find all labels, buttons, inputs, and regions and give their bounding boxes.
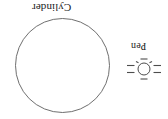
pen-ray-group (127, 59, 161, 79)
cylinder-circle-shape (16, 19, 110, 113)
pen-circle-shape (138, 63, 150, 75)
pen-label: Pen (131, 41, 146, 51)
diagram-canvas: Cylinder Pen (0, 0, 168, 119)
cylinder-label: Cylinder (32, 2, 71, 13)
diagram-svg (0, 0, 168, 119)
pen-ray-top-left (136, 62, 139, 63)
pen-ray-top-right (150, 62, 153, 63)
